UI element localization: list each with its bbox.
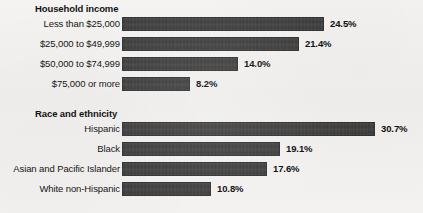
category-label: $75,000 or more: [0, 78, 120, 89]
category-label: Hispanic: [0, 123, 120, 134]
bar: [122, 77, 190, 91]
bar-value-label: 8.2%: [196, 78, 217, 89]
bar: [122, 17, 324, 31]
bar-track: [122, 182, 211, 196]
bar-row: $25,000 to $49,999 21.4%: [0, 37, 423, 57]
bar-track: [122, 17, 324, 31]
bar: [122, 142, 280, 156]
bar-value-label: 30.7%: [381, 123, 407, 134]
bar: [122, 162, 267, 176]
bar: [122, 182, 211, 196]
category-label: Black: [0, 143, 120, 154]
bar-track: [122, 162, 267, 176]
bar-rows-race-and-ethnicity: Hispanic 30.7% Black 19.1% Asian and Pac…: [0, 122, 423, 202]
bar: [122, 37, 299, 51]
category-label: White non-Hispanic: [0, 183, 120, 194]
bar-value-label: 21.4%: [305, 38, 331, 49]
bar-track: [122, 77, 190, 91]
bar-row: Asian and Pacific Islander 17.6%: [0, 162, 423, 182]
bar-chart: Household income Less than $25,000 24.5%…: [0, 0, 423, 213]
bar-value-label: 14.0%: [244, 58, 270, 69]
bar-track: [122, 37, 299, 51]
bar: [122, 57, 238, 71]
bar-row: $50,000 to $74,999 14.0%: [0, 57, 423, 77]
bar-value-label: 10.8%: [217, 183, 243, 194]
bar-rows-household-income: Less than $25,000 24.5% $25,000 to $49,9…: [0, 17, 423, 97]
category-label: $25,000 to $49,999: [0, 38, 120, 49]
bar-value-label: 19.1%: [286, 143, 312, 154]
bar-track: [122, 57, 238, 71]
category-label: Less than $25,000: [0, 18, 120, 29]
bar: [122, 122, 375, 136]
bar-row: White non-Hispanic 10.8%: [0, 182, 423, 202]
bar-row: Hispanic 30.7%: [0, 122, 423, 142]
bar-track: [122, 122, 375, 136]
category-label: $50,000 to $74,999: [0, 58, 120, 69]
bar-track: [122, 142, 280, 156]
category-label: Asian and Pacific Islander: [0, 163, 120, 174]
section-title-household-income: Household income: [35, 3, 118, 14]
bar-row: $75,000 or more 8.2%: [0, 77, 423, 97]
bar-row: Black 19.1%: [0, 142, 423, 162]
bar-value-label: 24.5%: [330, 18, 356, 29]
bar-row: Less than $25,000 24.5%: [0, 17, 423, 37]
bar-value-label: 17.6%: [273, 163, 299, 174]
section-title-race-and-ethnicity: Race and ethnicity: [35, 108, 117, 119]
